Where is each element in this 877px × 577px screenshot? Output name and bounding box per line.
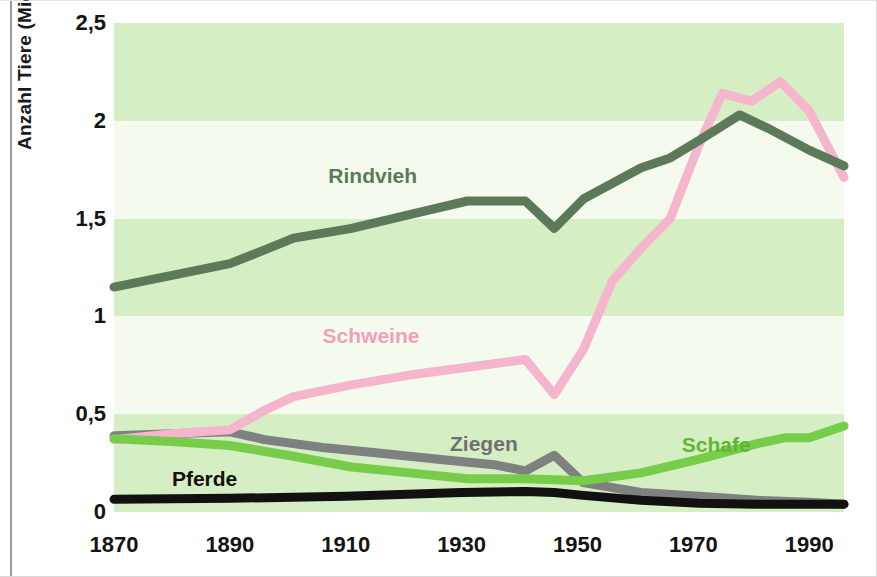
- series-label-schafe: Schafe: [682, 434, 751, 455]
- series-label-ziegen: Ziegen: [450, 433, 518, 454]
- x-tick-label: 1970: [643, 534, 743, 556]
- x-tick-label: 1890: [180, 534, 280, 556]
- x-tick-label: 1910: [296, 534, 396, 556]
- series-label-rindvieh: Rindvieh: [328, 165, 417, 186]
- x-tick-label: 1950: [527, 534, 627, 556]
- x-tick-label: 1930: [412, 534, 512, 556]
- x-tick-label: 1990: [759, 534, 859, 556]
- series-label-pferde: Pferde: [172, 468, 237, 489]
- chart-page: Anzahl Tiere (Mio.) 00,511,522,5 1870189…: [0, 0, 877, 577]
- x-tick-label: 1870: [64, 534, 164, 556]
- series-line-rindvieh: [114, 115, 844, 287]
- series-label-schweine: Schweine: [323, 325, 420, 346]
